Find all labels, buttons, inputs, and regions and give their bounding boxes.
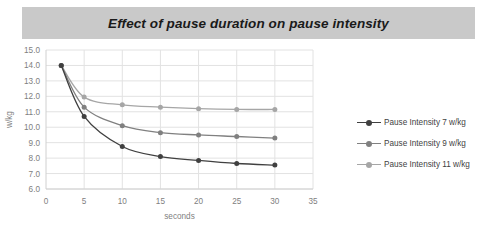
- data-point-marker: [234, 161, 239, 166]
- legend-label-series-3: Pause Intensity 11 w/kg: [384, 160, 470, 169]
- y-tick-label: 11.0: [25, 108, 41, 117]
- x-axis-title: seconds: [164, 212, 195, 221]
- y-tick-label: 10.0: [24, 123, 40, 132]
- x-tick-label: 25: [232, 197, 242, 206]
- legend-item-series-3[interactable]: Pause Intensity 11 w/kg: [357, 154, 485, 175]
- data-point-marker: [272, 163, 277, 168]
- legend-label-series-2: Pause Intensity 9 w/kg: [384, 139, 466, 148]
- data-point-marker: [158, 105, 163, 110]
- legend-marker-icon: [357, 118, 381, 128]
- data-point-marker: [196, 158, 201, 163]
- y-tick-label: 7.0: [29, 170, 41, 179]
- legend-item-series-1[interactable]: Pause Intensity 7 w/kg: [357, 112, 485, 133]
- data-point-marker: [82, 114, 87, 119]
- legend-marker-icon: [357, 139, 381, 149]
- y-tick-label: 6.0: [29, 185, 41, 194]
- data-point-marker: [158, 154, 163, 159]
- data-point-marker: [158, 130, 163, 135]
- data-point-marker: [82, 105, 87, 110]
- y-axis-title: w/kg: [5, 111, 14, 129]
- legend-marker-icon: [357, 160, 381, 170]
- y-tick-label: 14.0: [24, 61, 40, 70]
- chart-title: Effect of pause duration on pause intens…: [108, 16, 389, 31]
- x-tick-label: 30: [270, 197, 280, 206]
- x-tick-label: 35: [308, 197, 318, 206]
- x-tick-label: 15: [156, 197, 166, 206]
- x-tick-label: 5: [82, 197, 87, 206]
- data-point-marker: [120, 144, 125, 149]
- data-point-marker: [196, 106, 201, 111]
- legend-dot: [366, 162, 372, 168]
- y-tick-label: 12.0: [24, 92, 40, 101]
- legend-dot: [366, 120, 372, 126]
- chart-legend: Pause Intensity 7 w/kg Pause Intensity 9…: [357, 112, 485, 175]
- plot-area: 6.07.08.09.010.011.012.013.014.015.00510…: [0, 42, 360, 222]
- data-point-marker: [272, 107, 277, 112]
- legend-item-series-2[interactable]: Pause Intensity 9 w/kg: [357, 133, 485, 154]
- x-tick-label: 20: [194, 197, 204, 206]
- y-tick-label: 9.0: [29, 139, 41, 148]
- data-point-marker: [82, 95, 87, 100]
- y-tick-label: 13.0: [24, 77, 40, 86]
- x-tick-label: 0: [44, 197, 49, 206]
- x-tick-label: 10: [118, 197, 128, 206]
- data-point-marker: [272, 136, 277, 141]
- y-tick-label: 8.0: [29, 154, 41, 163]
- legend-label-series-1: Pause Intensity 7 w/kg: [384, 118, 466, 127]
- data-point-marker: [234, 107, 239, 112]
- legend-dot: [366, 141, 372, 147]
- data-point-marker: [120, 123, 125, 128]
- data-point-marker: [59, 63, 64, 68]
- y-tick-label: 15.0: [24, 46, 40, 55]
- data-point-marker: [234, 134, 239, 139]
- chart-container: Effect of pause duration on pause intens…: [0, 0, 488, 229]
- data-point-marker: [196, 132, 201, 137]
- data-point-marker: [120, 102, 125, 107]
- chart-title-banner: Effect of pause duration on pause intens…: [22, 7, 475, 39]
